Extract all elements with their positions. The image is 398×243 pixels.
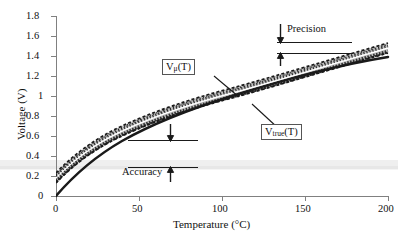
annotation-precision-label: Precision xyxy=(287,23,326,34)
x-tick-label-200: 200 xyxy=(378,203,394,214)
label-v-true-sub: true xyxy=(273,129,285,138)
y-tick-label-1.4: 1.4 xyxy=(26,50,39,61)
label-box-v-true: Vtrue(T) xyxy=(261,124,302,140)
y-tick-label-0.4: 0.4 xyxy=(26,150,39,161)
y-tick-label-0.2: 0.2 xyxy=(26,170,39,181)
x-tick-label-100: 100 xyxy=(212,203,228,214)
y-axis-title: Voltage (V) xyxy=(15,89,27,140)
y-tick-label-1: 1 xyxy=(38,90,43,101)
label-v-true-tail: (T) xyxy=(284,126,297,137)
curve-v-true xyxy=(56,57,388,196)
label-v-mu-tail: (T) xyxy=(178,61,191,72)
x-tick-label-0: 0 xyxy=(53,203,58,214)
y-tick-label-0.8: 0.8 xyxy=(26,110,39,121)
y-tick-label-1.2: 1.2 xyxy=(26,70,39,81)
chart-canvas xyxy=(0,0,398,243)
x-axis-title: Temperature (°C) xyxy=(173,218,250,230)
x-tick-label-50: 50 xyxy=(132,203,143,214)
x-tick-label-150: 150 xyxy=(295,203,311,214)
y-tick-label-1.6: 1.6 xyxy=(26,30,39,41)
label-v-mu-main: V xyxy=(166,61,174,72)
figure-chart: 1.8 1.6 1.4 1.2 1 0.8 0.6 0.4 0.2 0 0 50… xyxy=(0,0,398,243)
annotation-accuracy-label: Accuracy xyxy=(122,166,162,177)
y-tick-label-0.6: 0.6 xyxy=(26,130,39,141)
y-tick-label-0: 0 xyxy=(38,190,43,201)
label-box-v-mu: Vμ(T) xyxy=(162,59,195,75)
y-tick-label-1.8: 1.8 xyxy=(26,10,39,21)
label-v-true-main: V xyxy=(265,126,273,137)
